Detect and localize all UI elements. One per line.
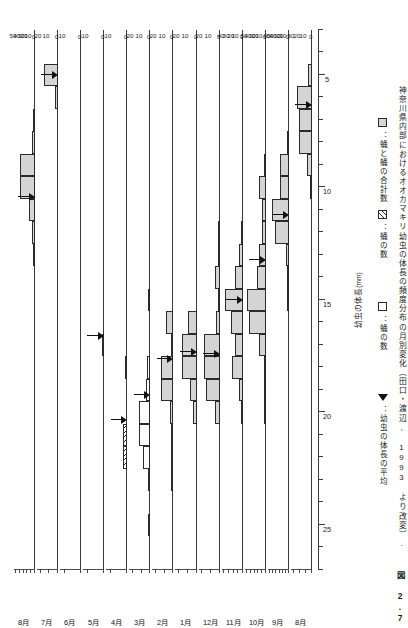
count-axis-tick-label: 10 bbox=[158, 33, 165, 40]
count-axis-tick bbox=[228, 570, 229, 574]
histogram-bar bbox=[182, 356, 197, 379]
x-axis-minor-tick bbox=[318, 547, 323, 548]
figure-number: 図 2.7 bbox=[394, 571, 406, 624]
count-axis-tick bbox=[26, 570, 27, 574]
histogram-bar bbox=[139, 424, 150, 447]
histogram-bar bbox=[249, 311, 266, 334]
count-axis-tick bbox=[141, 570, 142, 574]
count-axis-tick bbox=[103, 570, 104, 574]
month-panel: 010207月 bbox=[35, 30, 58, 570]
axis-line bbox=[318, 30, 319, 570]
count-axis-tick bbox=[293, 570, 294, 574]
count-axis-tick bbox=[149, 570, 150, 574]
month-panel: 010203月 bbox=[127, 30, 150, 570]
month-panel: 0102030405010月 bbox=[243, 30, 266, 570]
x-axis-minor-tick bbox=[318, 479, 323, 480]
x-axis-minor-tick bbox=[318, 502, 323, 503]
legend-label: ：蛹と蛹の合計数 bbox=[377, 131, 388, 203]
panel-plot-area: 010203月 bbox=[127, 30, 150, 570]
x-axis-minor-tick bbox=[318, 254, 323, 255]
month-label: 5月 bbox=[88, 616, 99, 627]
month-panel: 01020308月 bbox=[289, 30, 312, 570]
histogram-bar bbox=[310, 176, 312, 199]
count-axis-tick bbox=[275, 570, 276, 574]
figure-caption: 神奈川県内部におけるオオカマキリ幼虫の体長の頻度分布の月別変化（田口・渡辺, 1… bbox=[396, 86, 406, 549]
x-axis-tick-label: 20 bbox=[323, 413, 331, 422]
count-axis-tick bbox=[250, 570, 251, 574]
histogram-bar bbox=[235, 334, 243, 357]
count-axis-tick bbox=[279, 570, 280, 574]
count-axis-tick bbox=[132, 570, 133, 574]
legend-swatch-pupa-icon bbox=[378, 302, 387, 311]
plot-stage: 010203040508月010207月0106月0105月0104月01020… bbox=[0, 0, 408, 628]
count-axis-tick bbox=[155, 570, 156, 574]
count-axis bbox=[106, 569, 127, 570]
legend-item: ：幼虫の体長の平均 bbox=[377, 394, 388, 486]
panel-plot-area: 0104月 bbox=[104, 30, 127, 570]
x-axis-minor-tick bbox=[318, 277, 323, 278]
legend-label: ：蛹の数 bbox=[377, 223, 388, 259]
month-label: 9月 bbox=[272, 616, 283, 627]
histogram-bar bbox=[166, 311, 174, 334]
panel-plot-area: 0106月 bbox=[58, 30, 81, 570]
body-length-axis: 252015105 bbox=[318, 30, 348, 570]
month-label: 2月 bbox=[157, 616, 168, 627]
count-axis-tick bbox=[87, 570, 88, 574]
histogram-bar bbox=[206, 379, 220, 402]
count-axis-tick-label: 50 bbox=[241, 33, 248, 40]
count-axis-tick-label: 10 bbox=[204, 33, 211, 40]
month-label: 8月 bbox=[18, 616, 29, 627]
legend-item: ：蛹の数 bbox=[377, 210, 388, 259]
legend-label: ：蛹の数 bbox=[377, 315, 388, 351]
count-axis-tick bbox=[15, 570, 16, 574]
month-panel: 0105月 bbox=[81, 30, 104, 570]
panel-stack: 010203040508月010207月0106月0105月0104月01020… bbox=[12, 30, 312, 570]
count-axis-tick bbox=[48, 570, 49, 574]
histogram-bar bbox=[257, 266, 266, 289]
legend-label: ：幼虫の体長の平均 bbox=[377, 405, 388, 486]
histogram-bar bbox=[308, 64, 312, 87]
x-axis-major-tick bbox=[318, 74, 325, 75]
count-axis-tick bbox=[261, 570, 262, 574]
histogram-bar bbox=[299, 109, 312, 132]
x-axis-minor-tick bbox=[318, 434, 323, 435]
count-axis-tick bbox=[187, 570, 188, 574]
count-axis-tick bbox=[126, 570, 127, 574]
count-axis-tick bbox=[254, 570, 255, 574]
count-axis-tick bbox=[305, 570, 306, 574]
x-axis-minor-tick bbox=[318, 367, 323, 368]
x-axis-tick-label: 10 bbox=[323, 188, 331, 197]
x-axis-tick-label: 5 bbox=[325, 75, 329, 84]
count-axis-tick bbox=[210, 570, 211, 574]
count-axis-tick-label: 20 bbox=[196, 33, 203, 40]
histogram-bar bbox=[275, 221, 289, 244]
count-axis-tick-label: 10 bbox=[59, 33, 66, 40]
count-axis-tick bbox=[237, 570, 238, 574]
histogram-bar bbox=[259, 334, 266, 357]
histogram-bar bbox=[139, 401, 150, 424]
month-label: 8月 bbox=[295, 616, 306, 627]
histogram-bar bbox=[232, 356, 242, 379]
x-axis-minor-tick bbox=[318, 569, 323, 570]
x-axis-tick-label: 25 bbox=[323, 525, 331, 534]
count-axis-tick bbox=[242, 570, 243, 574]
month-panel: 0106月 bbox=[58, 30, 81, 570]
count-axis-tick-label: 10 bbox=[43, 33, 50, 40]
count-axis-tick bbox=[282, 570, 283, 574]
count-axis-tick-label: 10 bbox=[181, 33, 188, 40]
figure-root: 010203040508月010207月0106月0105月0104月01020… bbox=[0, 0, 408, 628]
month-panel: 010202月 bbox=[150, 30, 173, 570]
histogram-bar bbox=[299, 131, 312, 154]
panel-plot-area: 010203040508月 bbox=[12, 30, 35, 570]
mean-marker-icon bbox=[306, 101, 312, 109]
month-label: 10月 bbox=[249, 616, 264, 627]
count-axis-tick bbox=[233, 570, 234, 574]
histogram-bar bbox=[190, 379, 197, 402]
count-axis-tick bbox=[257, 570, 258, 574]
histogram-bar bbox=[20, 154, 35, 177]
count-axis-tick bbox=[311, 570, 312, 574]
panel-plot-area: 01020308月 bbox=[289, 30, 312, 570]
legend-swatch-mean-icon bbox=[378, 394, 388, 401]
panel-plot-area: 010207月 bbox=[35, 30, 58, 570]
month-label: 7月 bbox=[41, 616, 52, 627]
